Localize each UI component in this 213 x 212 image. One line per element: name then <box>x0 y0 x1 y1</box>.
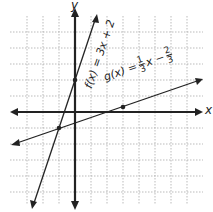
g-mid: x − <box>144 51 166 70</box>
g-point <box>121 105 126 110</box>
x-axis-label: x <box>205 103 212 117</box>
f-intercept-point <box>73 78 78 83</box>
y-axis-arrow-down <box>71 201 79 210</box>
x-axis-arrow-right <box>195 108 203 116</box>
intersection-point <box>57 126 62 131</box>
y-axis-label: y <box>71 0 78 12</box>
x-axis-arrow-left <box>10 108 18 116</box>
